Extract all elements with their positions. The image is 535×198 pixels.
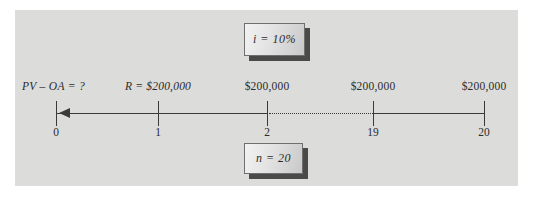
- period-label: 19: [367, 126, 379, 138]
- cash-flow-label: $200,000: [351, 80, 396, 92]
- cash-flow-label: $200,000: [462, 80, 507, 92]
- present-value-label: PV – OA = ?: [22, 80, 85, 92]
- left-arrowhead-icon: [59, 108, 70, 118]
- interest-rate-box: i = 10%: [244, 23, 305, 56]
- tick-mark: [158, 101, 159, 126]
- tick-mark: [373, 101, 374, 126]
- period-label: 0: [53, 126, 59, 138]
- timeline-axis-right: [373, 113, 484, 114]
- timeline-axis-left: [56, 113, 267, 114]
- period-label: 2: [264, 126, 270, 138]
- timeline-axis-dotted: [269, 113, 373, 114]
- tick-mark: [267, 101, 268, 126]
- periods-box: n = 20: [244, 143, 303, 174]
- period-label: 1: [155, 126, 161, 138]
- cash-flow-label: R = $200,000: [125, 80, 191, 92]
- cash-flow-label: $200,000: [245, 80, 290, 92]
- tick-mark: [56, 101, 57, 126]
- timeline-figure: i = 10% n = 20 PV – OA = ? 0R = $200,000…: [0, 0, 535, 198]
- period-label: 20: [478, 126, 490, 138]
- tick-mark: [484, 101, 485, 126]
